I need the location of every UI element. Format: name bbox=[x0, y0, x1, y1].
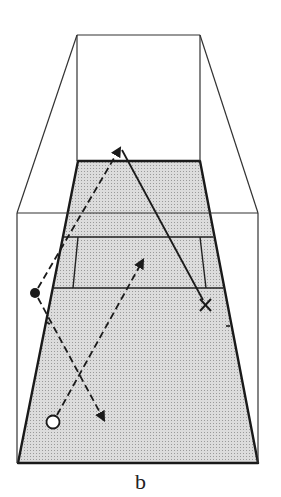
filled-dot-player bbox=[30, 288, 40, 298]
court-diagram bbox=[0, 0, 281, 497]
open-circle-player bbox=[47, 416, 60, 429]
figure-caption: b bbox=[0, 470, 281, 494]
back-wall bbox=[77, 35, 200, 161]
